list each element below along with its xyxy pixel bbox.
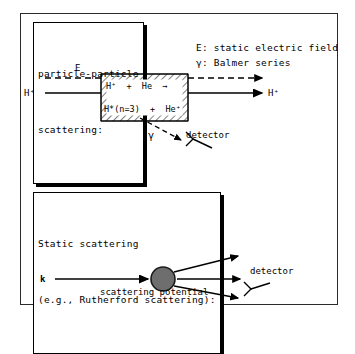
detector-symbol-bottom bbox=[244, 282, 270, 296]
label-reaction-products: H*(n=3) + He⁺ bbox=[104, 105, 181, 114]
label-wavevector-k: k bbox=[40, 275, 45, 284]
label-reaction-reactants: H⁺ + He → bbox=[106, 82, 167, 91]
label-incident-proton: H⁺ bbox=[24, 89, 35, 98]
label-detector-bottom: detector bbox=[250, 267, 293, 276]
label-outgoing-proton: H⁺ bbox=[268, 89, 279, 98]
label-detector-top: detector bbox=[186, 131, 229, 140]
label-photon-gamma: γ bbox=[148, 131, 154, 141]
label-electric-field: E bbox=[75, 64, 80, 73]
label-scattering-potential: scattering potential bbox=[100, 288, 208, 297]
